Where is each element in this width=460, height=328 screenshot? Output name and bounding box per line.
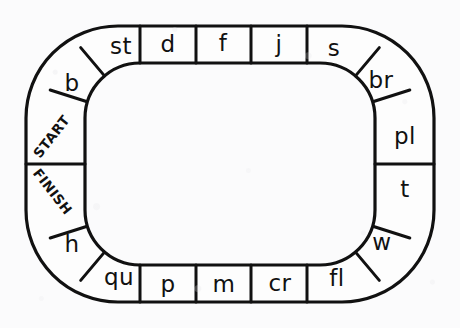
inner-oval-outline xyxy=(85,63,375,265)
cell-label-f[interactable]: f xyxy=(219,30,228,56)
cell-label-m[interactable]: m xyxy=(213,271,236,297)
cell-label-s[interactable]: s xyxy=(328,35,340,61)
cell-label-fl[interactable]: fl xyxy=(329,265,345,291)
cell-label-p[interactable]: p xyxy=(160,271,175,297)
cell-label-br[interactable]: br xyxy=(368,67,393,93)
cell-label-t[interactable]: t xyxy=(400,176,410,202)
cell-label-d[interactable]: d xyxy=(160,31,175,57)
cell-label-cr[interactable]: cr xyxy=(268,270,291,296)
board-game-canvas: st d f j s br pl t w fl cr m p qu h FINI… xyxy=(0,0,460,328)
cell-label-qu[interactable]: qu xyxy=(104,264,134,290)
cell-label-st[interactable]: st xyxy=(110,33,132,59)
cell-label-h[interactable]: h xyxy=(64,231,79,257)
cell-label-b[interactable]: b xyxy=(64,70,79,96)
oval-track-svg: st d f j s br pl t w fl cr m p qu h FINI… xyxy=(0,0,460,328)
cell-label-j[interactable]: j xyxy=(275,31,283,57)
cell-label-w[interactable]: w xyxy=(372,229,391,255)
cell-label-pl[interactable]: pl xyxy=(394,123,416,149)
